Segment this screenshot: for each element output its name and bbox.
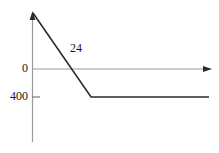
x-axis-label-24: 24 xyxy=(70,42,82,54)
y-axis-label-zero: 0 xyxy=(0,62,28,74)
chart-figure: 0 400 24 xyxy=(0,0,219,153)
x-axis-arrowhead-icon xyxy=(203,66,212,72)
chart-canvas xyxy=(0,0,219,153)
y-axis-label-400: 400 xyxy=(0,90,28,102)
data-line-piecewise xyxy=(33,13,209,97)
